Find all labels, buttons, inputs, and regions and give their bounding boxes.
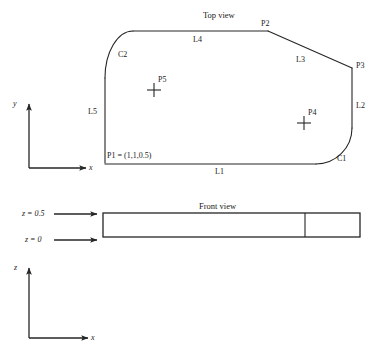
edge-label-l1: L1 [215, 168, 224, 176]
point-marker-p4 [297, 116, 311, 130]
point-label-p4: P4 [308, 109, 316, 117]
bottom-axis-z-label: z [14, 264, 17, 272]
front-view-title: Front view [199, 202, 236, 211]
front-view-outline [103, 213, 360, 237]
edge-label-c2: C2 [118, 51, 127, 59]
edge-label-c1: C1 [337, 155, 346, 163]
top-axis-x-label: x [89, 164, 93, 172]
point-label-p1: P1 = (1,1,0.5) [107, 152, 151, 160]
point-label-p2: P2 [261, 20, 269, 28]
edge-label-l4: L4 [193, 36, 202, 44]
top-view-profile [105, 31, 352, 164]
edge-label-l2: L2 [356, 102, 365, 110]
edge-label-l3: L3 [296, 56, 305, 64]
top-view-title: Top view [203, 11, 235, 20]
arc-c1 [316, 128, 352, 164]
z-top-label: z = 0.5 [22, 210, 45, 218]
z-leader-arrows [54, 214, 97, 240]
bottom-axis-x-label: x [91, 334, 95, 342]
bottom-axis-triad [29, 268, 88, 338]
diagram-page: Top view L4 P2 L3 P3 L2 C1 L1 C2 L5 P5 P… [0, 0, 382, 354]
top-axis-triad [29, 104, 86, 168]
edge-label-l5: L5 [88, 108, 97, 116]
point-label-p5: P5 [158, 76, 166, 84]
edge-l3 [268, 31, 352, 68]
front-view-body [103, 213, 360, 237]
diagram-canvas [0, 0, 382, 354]
point-marker-p5 [147, 83, 161, 97]
z-bottom-label: z = 0 [25, 236, 42, 244]
point-label-p3: P3 [356, 62, 364, 70]
top-axis-y-label: y [13, 100, 17, 108]
